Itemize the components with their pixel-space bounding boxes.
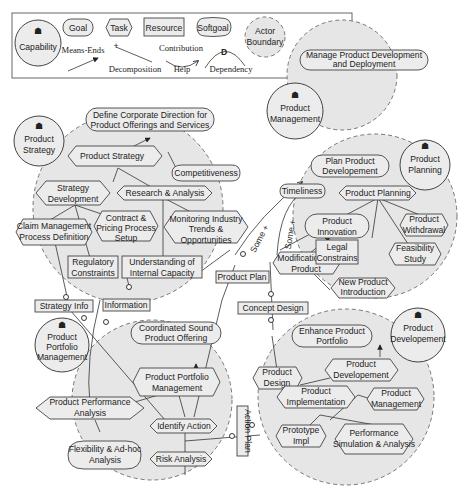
actor-product-planning[interactable]: ☗ Product Planning [400,140,450,190]
task-research-analysis[interactable]: Research & Analysis [117,186,212,200]
actor-product-development[interactable]: ☗ Product Developement [390,308,446,362]
task-product-withdrawal[interactable]: Product Withdrawal [400,214,448,236]
svg-text:Identify Action: Identify Action [157,421,211,431]
svg-text:Concept Design: Concept Design [242,303,303,313]
svg-text:Product Portfolio: Product Portfolio [145,372,209,382]
goal-coordinated-sound-product-offering[interactable]: Coordinated Sound Product Offering [131,322,221,344]
contribution-label-some-plus: Some + [248,223,271,254]
resource-legal-constrains[interactable]: Legal Constrains [316,240,358,264]
svg-text:Setup: Setup [115,233,138,243]
task-risk-analysis[interactable]: Risk Analysis [150,452,212,466]
capability-icon: ☗ [58,320,66,330]
svg-text:Strategy Info: Strategy Info [40,301,89,311]
svg-text:Withdrawal: Withdrawal [403,225,446,235]
capability-icon: ☗ [421,141,429,151]
svg-text:Trends &: Trends & [189,224,224,234]
svg-text:Product: Product [409,214,439,224]
svg-text:Coordinated Sound: Coordinated Sound [139,323,213,333]
svg-text:Product Offerings and Services: Product Offerings and Services [91,120,210,130]
svg-text:Implementation: Implementation [287,397,346,407]
svg-text:Process Definition: Process Definition [19,232,88,242]
task-claim-management-process-definition[interactable]: Claim Management Process Definition [16,219,92,245]
resource-information[interactable]: Information [103,299,150,311]
goal-enhance-product-portfolio[interactable]: Enhance Product Portfolio [292,325,372,347]
task-product-performance-analysis[interactable]: Product Performance Analysis [36,397,144,419]
istar-diagram: ☗ Capability Goal Task Resource Softgoal… [0,0,466,493]
svg-text:Contract &: Contract & [106,213,147,223]
svg-text:Action Plan: Action Plan [243,409,253,453]
task-product-portfolio-management[interactable]: Product Portfolio Management [133,368,220,396]
svg-text:Management: Management [371,399,422,409]
resource-regulatory-constraints[interactable]: Regulatory Constraints [68,256,118,278]
goal-define-corporate-direction[interactable]: Define Corporate Direction for Product O… [86,108,214,131]
task-new-product-introduction[interactable]: New Product Introduction [331,277,395,298]
task-product-management[interactable]: Product Management [367,388,424,410]
actor-product-strategy[interactable]: ☗ Product Strategy [14,116,64,166]
svg-text:Development: Development [48,194,99,204]
svg-text:Product: Product [381,388,411,398]
svg-text:Product Planning: Product Planning [345,188,411,198]
task-contract-pricing-process-setup[interactable]: Contract & Pricing Process Setup [94,211,158,243]
resource-concept-design[interactable]: Concept Design [238,302,308,314]
actor-product-portfolio-management[interactable]: ☗ Product Portfolio Management [35,318,89,372]
legend-task-label: Task [110,23,128,33]
svg-text:Product: Product [280,103,310,113]
softgoal-flexibility-adhoc-analysis[interactable]: Flexibility & Ad-hoc Analysis [68,441,142,469]
legend-softgoal-label: Softgoal [197,23,229,33]
svg-text:Product Performance: Product Performance [49,397,130,407]
resource-understanding-internal-capacity[interactable]: Understanding of Internal Capacity [122,256,202,278]
svg-text:Strategy: Strategy [57,183,90,193]
svg-text:Portfolio: Portfolio [316,336,348,346]
svg-text:Information: Information [105,300,148,310]
svg-text:Product Offering: Product Offering [145,333,208,343]
resource-strategy-info[interactable]: Strategy Info [35,300,93,312]
task-feasibility-study[interactable]: Feasibility Study [389,243,441,265]
legend-resource-label: Resource [146,23,183,33]
actor-product-management[interactable]: ☗ Product Management [267,83,323,139]
task-product-implementation[interactable]: Product Implementation [277,386,355,408]
svg-text:Enhance Product: Enhance Product [299,326,366,336]
svg-text:Plan Product: Plan Product [325,156,375,166]
goal-manage-product-development[interactable]: Manage Product Development and Deploymen… [300,50,428,70]
svg-text:Claim Management: Claim Management [17,221,92,231]
svg-text:Timeliness: Timeliness [282,186,323,196]
goal-plan-product-development[interactable]: Plan Product Developement [311,155,389,177]
svg-text:Legal: Legal [326,242,347,252]
svg-text:Risk Analysis: Risk Analysis [156,454,207,464]
resource-action-plan[interactable]: Action Plan [237,406,253,456]
softgoal-timeliness[interactable]: Timeliness [280,184,325,198]
task-product-planning[interactable]: Product Planning [339,186,416,200]
task-prototype-impl[interactable]: Prototype Impl [276,425,326,447]
svg-text:Simulation & Analysis: Simulation & Analysis [333,439,415,449]
svg-text:Research & Analysis: Research & Analysis [126,188,205,198]
svg-text:Define Corporate Direction for: Define Corporate Direction for [93,110,207,120]
task-monitoring-industry-trends[interactable]: Monitoring Industry Trends & Opportuniti… [164,211,248,245]
svg-text:Developement: Developement [390,334,446,344]
goal-product-innovation[interactable]: Product Innovation [305,214,369,238]
svg-text:Product: Product [346,359,376,369]
svg-text:Product Strategy: Product Strategy [80,151,145,161]
legend-actor-boundary-label-1: Actor [255,26,275,36]
task-strategy-development[interactable]: Strategy Development [36,181,110,205]
svg-text:Management: Management [270,114,321,124]
task-product-developement[interactable]: Product Developement [325,359,398,381]
softgoal-competitiveness[interactable]: Competitiveness [172,165,240,181]
svg-text:Opportunities: Opportunities [180,235,231,245]
capability-icon: ☗ [291,90,299,100]
svg-text:Analysis: Analysis [74,408,106,418]
svg-text:Product: Product [301,386,331,396]
resource-product-plan[interactable]: Product Plan [216,271,269,283]
svg-text:Regulatory: Regulatory [72,257,114,267]
legend-means-ends-label: Means-Ends [62,45,106,55]
legend-decomposition-tick: + [113,41,118,51]
task-identify-action[interactable]: Identify Action [150,419,217,433]
svg-text:Product: Product [410,154,440,164]
svg-text:Monitoring Industry: Monitoring Industry [169,214,243,224]
svg-text:Product: Product [47,332,77,342]
legend-capability-label: Capability [19,42,57,52]
task-performance-simulation-analysis[interactable]: Performance Simulation & Analysis [333,424,415,454]
svg-text:Product: Product [322,216,352,226]
legend-dependency-mark: D [221,47,227,57]
svg-text:Portfolio: Portfolio [46,342,78,352]
task-product-strategy[interactable]: Product Strategy [68,146,162,166]
